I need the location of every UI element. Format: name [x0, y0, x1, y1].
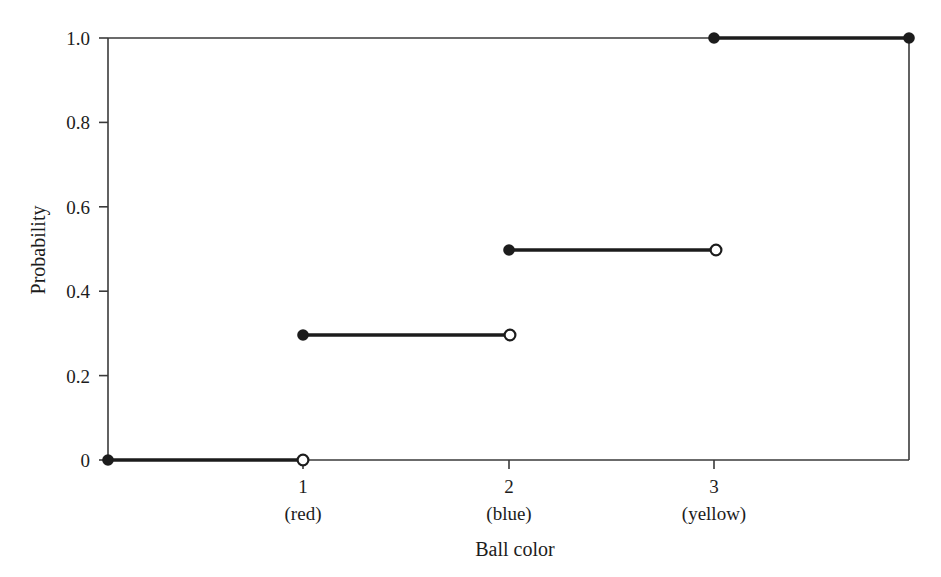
x-axis-ticks: [303, 460, 714, 469]
x-axis-title: Ball color: [475, 539, 554, 559]
open-marker-x3: [711, 245, 722, 256]
cdf-step-chart-figure: 1.0 0.8 0.6 0.4 0.2 0 1 (red) 2 (blue) 3…: [0, 0, 941, 577]
x-tick-label-1-number: 1: [298, 477, 308, 496]
filled-marker-x1: [297, 329, 309, 341]
y-axis-ticks: [99, 38, 108, 460]
open-marker-x2: [505, 330, 516, 341]
filled-endpoint-markers: [102, 32, 915, 466]
filled-marker-origin: [102, 454, 114, 466]
open-marker-x1: [298, 455, 309, 466]
y-tick-label-0.8: 0.8: [40, 113, 90, 132]
x-tick-label-1-color: (red): [285, 504, 322, 523]
x-tick-label-3-number: 3: [709, 477, 719, 496]
x-tick-label-2-color: (blue): [486, 504, 531, 523]
x-tick-label-2-number: 2: [504, 477, 514, 496]
plot-canvas: [0, 0, 941, 577]
open-endpoint-markers: [298, 245, 722, 466]
x-tick-label-3-color: (yellow): [682, 504, 746, 523]
filled-marker-x3: [708, 32, 720, 44]
y-axis-title: Probability: [28, 206, 48, 295]
y-tick-label-0: 0: [40, 451, 90, 470]
y-tick-label-1.0: 1.0: [40, 29, 90, 48]
filled-marker-right-end: [903, 32, 915, 44]
filled-marker-x2: [503, 244, 515, 256]
y-tick-label-0.2: 0.2: [40, 366, 90, 385]
